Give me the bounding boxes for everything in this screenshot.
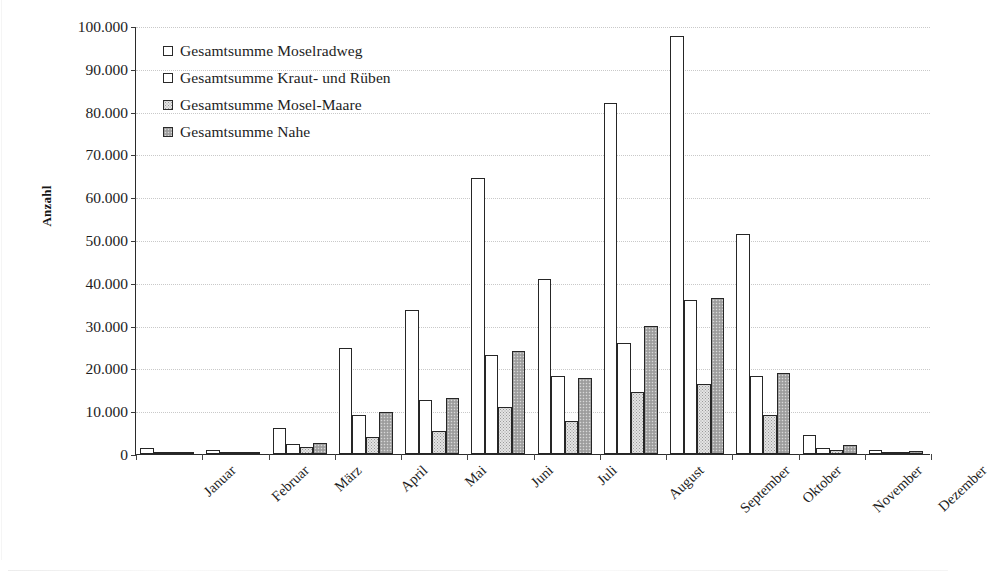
- bar: [471, 178, 485, 454]
- scan-artifact-bottom: [8, 570, 948, 571]
- y-axis-tick: [131, 27, 136, 28]
- bar-group: [736, 27, 790, 454]
- bar: [339, 348, 353, 454]
- x-axis-tick: [799, 454, 800, 460]
- x-axis-tick: [335, 454, 336, 460]
- y-axis-tick-label: 40.000: [85, 275, 128, 293]
- bar: [446, 398, 460, 454]
- bar: [247, 452, 261, 454]
- bar: [432, 431, 446, 454]
- y-axis-tick: [131, 327, 136, 328]
- bar-group: [670, 27, 724, 454]
- bar: [565, 421, 579, 454]
- bar: [830, 450, 844, 454]
- x-axis-tick: [534, 454, 535, 460]
- x-axis-tick: [202, 454, 203, 460]
- legend-swatch-icon: [163, 100, 173, 110]
- bar-group: [803, 27, 857, 454]
- legend-swatch-icon: [163, 127, 173, 137]
- bar: [512, 351, 526, 454]
- x-axis-label: Februar: [268, 462, 313, 505]
- bar: [286, 444, 300, 454]
- legend: Gesamtsumme MoselradwegGesamtsumme Kraut…: [163, 38, 493, 146]
- y-axis-tick: [131, 369, 136, 370]
- x-axis-tick: [467, 454, 468, 460]
- x-axis-tick: [600, 454, 601, 460]
- legend-swatch-icon: [163, 73, 173, 83]
- bar: [485, 355, 499, 454]
- y-axis-tick: [131, 198, 136, 199]
- y-axis-tick-label: 0: [120, 446, 128, 464]
- bar: [644, 326, 658, 454]
- bar: [140, 448, 154, 454]
- y-axis-tick-label: 20.000: [85, 360, 128, 378]
- legend-item: Gesamtsumme Kraut- und Rüben: [163, 65, 493, 90]
- bar-group: [604, 27, 658, 454]
- y-axis-tick: [131, 113, 136, 114]
- bar: [604, 103, 618, 454]
- legend-swatch-icon: [163, 46, 173, 56]
- bar: [206, 450, 220, 454]
- bar: [154, 452, 168, 454]
- x-axis-tick: [136, 454, 137, 460]
- y-axis-tick: [131, 241, 136, 242]
- x-axis-label: Oktober: [799, 462, 845, 507]
- x-axis-tick: [931, 454, 932, 460]
- bar: [843, 445, 857, 454]
- x-axis-tick: [401, 454, 402, 460]
- scan-artifact-left-edge: [1, 0, 2, 560]
- bar: [233, 452, 247, 454]
- y-axis-tick-label: 80.000: [85, 104, 128, 122]
- legend-label: Gesamtsumme Kraut- und Rüben: [180, 69, 391, 87]
- bar: [670, 36, 684, 454]
- bar: [777, 373, 791, 454]
- x-axis-label: Januar: [200, 462, 239, 500]
- y-axis-tick: [131, 412, 136, 413]
- bar: [405, 310, 419, 454]
- bar: [617, 343, 631, 454]
- legend-label: Gesamtsumme Nahe: [180, 123, 310, 141]
- x-axis-tick: [269, 454, 270, 460]
- y-axis-tick-label: 70.000: [85, 146, 128, 164]
- bar: [419, 400, 433, 454]
- bar: [352, 415, 366, 454]
- x-axis-label: Dezember: [935, 462, 990, 515]
- bar: [711, 298, 725, 454]
- y-axis-tick-label: 50.000: [85, 232, 128, 250]
- legend-label: Gesamtsumme Moselradweg: [180, 42, 363, 60]
- bar: [578, 378, 592, 454]
- x-axis-label: Mai: [461, 462, 490, 490]
- bar: [366, 437, 380, 454]
- y-axis-tick-label: 30.000: [85, 318, 128, 336]
- bar: [763, 415, 777, 454]
- x-axis-label: Juli: [593, 462, 620, 489]
- y-axis-tick-label: 90.000: [85, 61, 128, 79]
- legend-label: Gesamtsumme Mosel-Maare: [180, 96, 362, 114]
- bar: [697, 384, 711, 454]
- y-axis-tick-label: 60.000: [85, 189, 128, 207]
- bar: [313, 443, 327, 454]
- bar: [736, 234, 750, 454]
- y-axis-tick: [131, 70, 136, 71]
- bar: [909, 451, 923, 454]
- y-axis-tick-label: 100.000: [78, 18, 128, 36]
- bar: [167, 452, 181, 454]
- x-axis-label: März: [331, 462, 365, 495]
- y-axis-tick-label: 10.000: [85, 403, 128, 421]
- y-axis-tick: [131, 155, 136, 156]
- bar: [498, 407, 512, 454]
- bar: [300, 447, 314, 454]
- bar: [379, 412, 393, 454]
- y-axis-title: Anzahl: [39, 161, 55, 251]
- bar-group: [869, 27, 923, 454]
- bar: [273, 428, 287, 454]
- bar: [220, 452, 234, 454]
- bar: [631, 392, 645, 454]
- bar: [803, 435, 817, 454]
- x-axis-label: September: [737, 462, 794, 517]
- x-axis-label: November: [869, 462, 925, 516]
- x-axis-tick: [666, 454, 667, 460]
- y-axis-tick: [131, 284, 136, 285]
- bar-group: [538, 27, 592, 454]
